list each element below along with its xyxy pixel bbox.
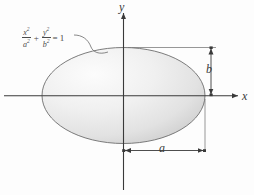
dimension-tick-b-top [210, 46, 213, 49]
ellipse-figure: x2 a2 + y2 b2 = 1 y x b a [0, 0, 254, 195]
dimension-tick-a-right [203, 149, 206, 152]
dimension-tick-a-left [122, 149, 125, 152]
eq-y-exp: 2 [47, 26, 50, 32]
y-axis-label: y [119, 1, 124, 13]
equation-term-y: y2 b2 [42, 27, 51, 48]
x-axis-label: x [242, 90, 247, 102]
eq-a-exp: 2 [27, 38, 30, 44]
semi-minor-axis-label: b [206, 63, 212, 75]
equation-operator: + [33, 33, 40, 43]
semi-major-axis-label: a [159, 142, 165, 154]
dimension-tick-b-bottom [210, 94, 213, 97]
equation-rhs: 1 [60, 33, 65, 43]
equation-equals: = [53, 33, 58, 43]
ellipse-equation: x2 a2 + y2 b2 = 1 [22, 27, 64, 48]
eq-x-exp: 2 [27, 26, 30, 32]
equation-term-x: x2 a2 [22, 27, 31, 48]
eq-b-exp: 2 [47, 38, 50, 44]
